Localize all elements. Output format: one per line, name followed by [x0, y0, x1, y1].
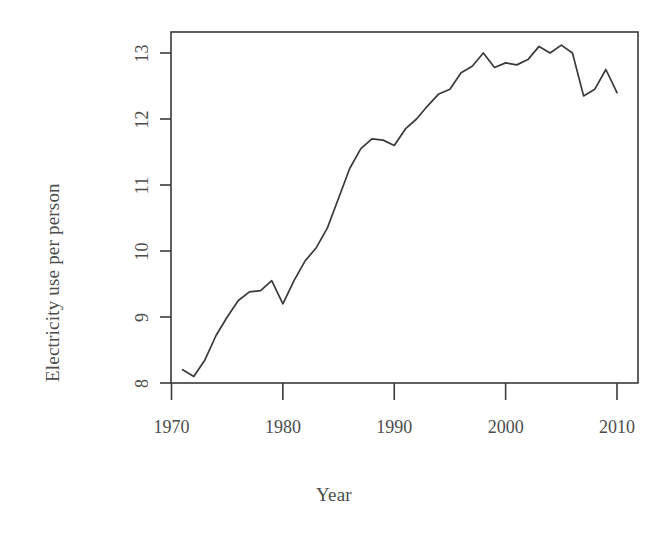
- x-axis-ticks: [172, 383, 618, 400]
- plot-canvas: [0, 0, 668, 537]
- x-tick-label: 2000: [471, 417, 541, 438]
- y-tick-label: 13: [132, 34, 153, 74]
- y-axis-ticks: [160, 53, 171, 383]
- y-tick-label: 12: [132, 100, 153, 140]
- data-series-line: [183, 45, 617, 376]
- chart-figure: Electricity use per person Year 19701980…: [0, 0, 668, 537]
- y-tick-label: 9: [132, 298, 153, 338]
- x-tick-label: 1990: [359, 417, 429, 438]
- y-axis-title: Electricity use per person: [42, 183, 64, 382]
- x-axis-title: Year: [0, 484, 668, 506]
- x-tick-label: 1970: [137, 417, 207, 438]
- y-tick-label: 11: [132, 166, 153, 206]
- y-tick-label: 8: [132, 364, 153, 404]
- y-tick-label: 10: [132, 232, 153, 272]
- x-tick-label: 1980: [248, 417, 318, 438]
- x-tick-label: 2010: [582, 417, 652, 438]
- plot-frame: [171, 32, 638, 383]
